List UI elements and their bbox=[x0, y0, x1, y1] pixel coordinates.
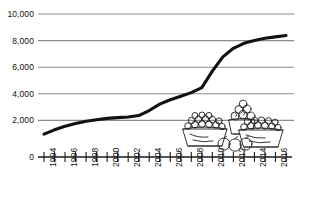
fruit-baskets-icon bbox=[177, 96, 289, 154]
x-axis-tick-label: 2000 bbox=[111, 148, 121, 167]
x-axis-tick-label: 2004 bbox=[153, 148, 163, 167]
x-axis-tick-label: 1996 bbox=[69, 148, 79, 167]
x-axis-tick-label: 1998 bbox=[90, 148, 100, 167]
x-axis-tick-label: 2002 bbox=[132, 148, 142, 167]
line-chart: 10,000 8,000 6,000 4,000 2,000 0 199419 bbox=[0, 0, 309, 201]
x-axis-tick-label: 1994 bbox=[48, 148, 58, 167]
fruit-baskets-illustration bbox=[177, 96, 289, 154]
